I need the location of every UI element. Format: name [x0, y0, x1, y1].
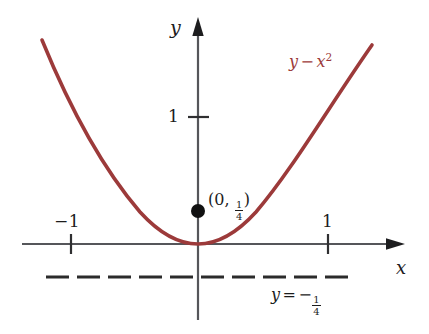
y-tick-label-one: 1	[168, 108, 179, 125]
x-tick-label-negative-one: −1	[54, 213, 80, 230]
tick-value: 1	[69, 211, 80, 231]
focus-point-label: (0, 14)	[208, 192, 250, 222]
fraction-numerator: 1	[235, 200, 244, 212]
curve-label-operator: −	[298, 52, 317, 71]
y-axis-arrowhead	[192, 17, 203, 36]
plot-canvas	[0, 0, 429, 334]
fraction-denominator: 4	[235, 211, 244, 222]
one-quarter-fraction: 14	[235, 200, 244, 222]
directrix-equation-label: y=−14	[271, 287, 321, 317]
negative-one-quarter-fraction: 14	[312, 295, 321, 317]
x-axis-arrowhead	[386, 238, 405, 249]
curve-label-lhs: y	[289, 52, 298, 71]
x-tick-label-one: 1	[322, 213, 333, 230]
curve-label-base: x	[317, 52, 326, 71]
curve-equation-label: y−x2	[289, 52, 332, 70]
y-axis-label: y	[170, 18, 181, 37]
equals-sign: =	[280, 285, 299, 304]
directrix-minus-sign: −	[299, 285, 312, 304]
paren-close: )	[244, 190, 250, 209]
curve-label-exponent: 2	[326, 51, 333, 63]
fraction-numerator: 1	[312, 295, 321, 307]
fraction-denominator: 4	[312, 306, 321, 317]
parabola-figure: y x −1 1 1 y−x2 (0, 14) y=−14	[0, 0, 429, 334]
point-comma: ,	[224, 190, 234, 209]
directrix-label-lhs: y	[271, 285, 280, 304]
minus-sign: −	[54, 211, 69, 231]
point-x-value: 0	[214, 190, 224, 209]
x-axis-label: x	[396, 259, 406, 277]
focus-point-marker	[191, 204, 205, 218]
